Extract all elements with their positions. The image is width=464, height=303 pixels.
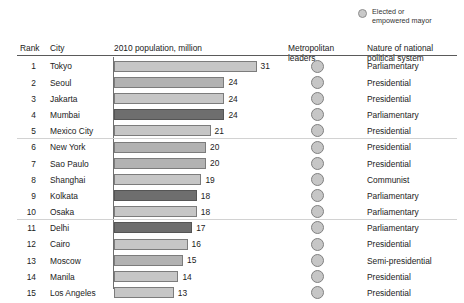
table-row: 9Kolkata18Parliamentary [0,188,464,204]
rank-cell: 13 [14,256,36,266]
population-bar-wrap [114,142,206,153]
metropolitan-leader-icon [311,254,324,267]
population-bar [114,109,224,120]
table-row: 1Tokyo31Parliamentary [0,58,464,74]
population-bar-wrap [114,190,197,201]
rank-cell: 11 [14,223,36,233]
political-system-cell: Parliamentary [367,223,419,233]
table-body: 1Tokyo31Parliamentary2Seoul24Presidentia… [0,58,464,301]
city-cell: Sao Paulo [50,159,89,169]
population-bar-wrap [114,287,174,298]
metropolitan-leader-icon [311,173,324,186]
population-bar [114,271,178,282]
population-value-label: 31 [261,61,270,71]
population-bar-wrap [114,239,188,250]
political-system-cell: Presidential [367,288,411,298]
metropolitan-leader-icon [311,238,324,251]
city-cell: Delhi [50,223,69,233]
legend: Elected or empowered mayor [358,8,432,25]
table-row: 6New York20Presidential [0,139,464,155]
metropolitan-leader-icon [311,141,324,154]
city-cell: Tokyo [50,61,72,71]
metropolitan-leader-icon [311,205,324,218]
rank-cell: 14 [14,272,36,282]
metropolitan-leader-icon [311,189,324,202]
rank-cell: 8 [14,175,36,185]
population-bar [114,287,174,298]
population-value-label: 14 [182,272,191,282]
population-value-label: 24 [228,110,237,120]
table-row: 13Moscow15Semi-presidential [0,252,464,268]
city-cell: Cairo [50,239,70,249]
table-row: 14Manila14Presidential [0,268,464,284]
rank-cell: 3 [14,94,36,104]
population-value-label: 24 [228,77,237,87]
population-value-label: 24 [228,94,237,104]
metropolitan-leader-icon [311,270,324,283]
city-cell: Osaka [50,207,74,217]
population-bar [114,158,206,169]
population-bar-wrap [114,255,183,266]
city-cell: Kolkata [50,191,78,201]
political-system-cell: Communist [367,175,409,185]
rank-cell: 12 [14,239,36,249]
metropolitan-leader-icon [311,108,324,121]
population-bar [114,255,183,266]
population-bar [114,93,224,104]
political-system-cell: Parliamentary [367,207,419,217]
rank-cell: 9 [14,191,36,201]
population-value-label: 20 [210,142,219,152]
political-system-cell: Presidential [367,94,411,104]
table-row: 11Delhi17Parliamentary [0,220,464,236]
political-system-cell: Presidential [367,239,411,249]
metropolitan-leader-icon [311,92,324,105]
metropolitan-leader-icon [311,124,324,137]
group-separator [17,219,457,220]
city-cell: New York [50,142,85,152]
city-cell: Mumbai [50,110,80,120]
population-value-label: 13 [178,288,187,298]
political-system-cell: Parliamentary [367,191,419,201]
rank-cell: 10 [14,207,36,217]
city-cell: Moscow [50,256,81,266]
legend-label: Elected or empowered mayor [372,8,432,25]
table-row: 5Mexico City21Presidential [0,123,464,139]
population-bar-wrap [114,77,224,88]
population-bar [114,77,224,88]
city-cell: Shanghai [50,175,85,185]
metropolitan-leader-icon [311,60,324,73]
column-header-city: City [50,43,64,53]
population-value-label: 15 [187,255,196,265]
metropolitan-leader-icon [311,76,324,89]
population-value-label: 18 [201,207,210,217]
table-row: 8Shanghai19Communist [0,171,464,187]
population-bar [114,125,211,136]
column-header-rank: Rank [20,43,40,53]
city-cell: Jakarta [50,94,77,104]
table-row: 4Mumbai24Parliamentary [0,107,464,123]
population-bar-wrap [114,125,211,136]
population-bar [114,239,188,250]
metropolitan-leader-icon [311,221,324,234]
political-system-cell: Presidential [367,126,411,136]
population-bar [114,206,197,217]
population-bar [114,142,206,153]
table-row: 2Seoul24Presidential [0,74,464,90]
population-bar [114,174,201,185]
population-value-label: 19 [205,175,214,185]
population-bar-wrap [114,109,224,120]
political-system-cell: Presidential [367,159,411,169]
population-bar-wrap [114,174,201,185]
filled-circle-icon [358,9,367,18]
group-separator [17,138,457,139]
political-system-cell: Semi-presidential [367,256,432,266]
population-value-label: 21 [215,126,224,136]
city-cell: Los Angeles [50,288,96,298]
population-bar-wrap [114,93,224,104]
population-bar [114,190,197,201]
political-system-cell: Presidential [367,272,411,282]
header-divider [17,55,457,56]
population-value-label: 17 [196,223,205,233]
column-header-population: 2010 population, million [114,43,202,53]
population-bar [114,61,257,72]
